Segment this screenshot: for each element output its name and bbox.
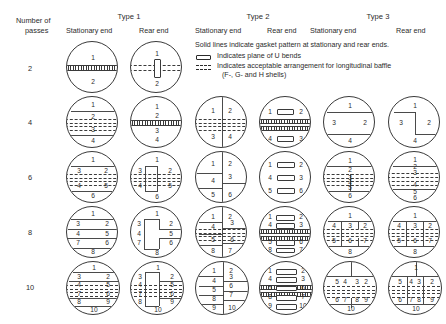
pass-number: 8 bbox=[138, 299, 142, 306]
pass-number: 3 bbox=[155, 128, 159, 135]
pass-number: 5 bbox=[348, 185, 352, 192]
pass-number: 7 bbox=[299, 247, 303, 254]
type-1-stationary-header: Stationary end bbox=[66, 26, 112, 35]
partition-line bbox=[327, 112, 373, 113]
pass-number: 6 bbox=[299, 188, 303, 195]
pass-number: 6 bbox=[106, 291, 110, 298]
u-bend-plane bbox=[276, 215, 295, 221]
baffle-band bbox=[388, 286, 442, 291]
pass-number: 2 bbox=[299, 162, 303, 169]
pass-circle: 1 3 2 4 5 7 6 8 9 10 bbox=[66, 261, 120, 315]
pass-number: 4 bbox=[137, 230, 141, 237]
pass-number: 1 bbox=[156, 265, 160, 272]
partition-line bbox=[157, 166, 158, 192]
row-header-line1: Number of bbox=[16, 16, 51, 25]
u-bend-plane bbox=[276, 295, 297, 301]
pass-number: 6 bbox=[348, 238, 352, 245]
pass-number: 9 bbox=[212, 305, 216, 312]
pass-number: 4 bbox=[228, 134, 232, 141]
partition-line bbox=[222, 183, 247, 184]
partition-line bbox=[199, 286, 223, 287]
pass-circle: 1 3 2 4 5 6 bbox=[66, 151, 118, 203]
type-3-stationary-header: Stationary end bbox=[310, 26, 356, 35]
pass-number: 5 bbox=[398, 279, 402, 286]
pass-number: 9 bbox=[170, 299, 174, 306]
pass-number: 1 bbox=[268, 108, 272, 115]
pass-number: 1 bbox=[155, 211, 159, 218]
pass-number: 3 bbox=[299, 175, 303, 182]
pass-number: 4 bbox=[348, 138, 352, 145]
gasket-band bbox=[66, 65, 118, 71]
pass-number: 3 bbox=[91, 126, 95, 133]
pass-number: 1 bbox=[211, 214, 215, 221]
pass-number: 4 bbox=[413, 138, 417, 145]
pass-number: 4 bbox=[397, 223, 401, 230]
partition-line bbox=[223, 300, 248, 301]
pass-number: 5 bbox=[397, 238, 401, 245]
pass-number: 6 bbox=[105, 240, 109, 247]
pass-circle: 1 2 3 4 5 6 bbox=[323, 151, 375, 203]
pass-number: 2 bbox=[106, 273, 110, 280]
pass-number: 4 bbox=[268, 175, 272, 182]
u-bend-plane bbox=[276, 277, 297, 283]
partition-line bbox=[222, 151, 223, 203]
pass-number: 1 bbox=[268, 268, 272, 275]
row-label-10: 10 bbox=[26, 283, 34, 292]
pass-number: 4 bbox=[212, 278, 216, 285]
pass-number: 5 bbox=[332, 238, 336, 245]
pass-number: 5 bbox=[268, 285, 272, 292]
u-bend-plane bbox=[277, 136, 294, 142]
pass-number: 2 bbox=[91, 113, 95, 120]
u-bend-plane bbox=[276, 304, 297, 310]
pass-circle: 1 5 4 3 2 6 7 8 9 10 bbox=[388, 261, 442, 315]
pass-number: 2 bbox=[155, 112, 159, 119]
baffle-band bbox=[195, 236, 247, 241]
partition-line bbox=[145, 272, 159, 273]
pass-circle: 1 2 3 4 bbox=[130, 96, 182, 148]
pass-number: 6 bbox=[91, 193, 95, 200]
pass-number: 8 bbox=[212, 296, 216, 303]
pass-number: 6 bbox=[155, 194, 159, 201]
pass-circle: 1 2 4 3 5 6 bbox=[195, 151, 247, 203]
pass-number: 3 bbox=[299, 222, 303, 229]
pass-number: 6 bbox=[413, 195, 417, 202]
pass-circle: 1 3 2 4 bbox=[388, 96, 440, 148]
pass-number: 4 bbox=[91, 138, 95, 145]
partition-line bbox=[406, 221, 407, 246]
partition-line bbox=[223, 281, 248, 282]
pass-number: 3 bbox=[355, 279, 359, 286]
pass-circle: 1 2 4 3 5 6 8 7 bbox=[259, 206, 311, 258]
baffle-band bbox=[130, 174, 182, 179]
pass-number: 1 bbox=[211, 108, 215, 115]
pass-arrangement-diagram: Number of passes Type 1 Stationary end R… bbox=[0, 0, 446, 324]
pass-number: 4 bbox=[138, 282, 142, 289]
pass-circle: 1 2 4 3 bbox=[259, 96, 311, 148]
partition-line bbox=[223, 261, 224, 315]
baffle-band bbox=[66, 181, 118, 186]
type-1-header: Type 1 bbox=[118, 12, 141, 21]
pass-number: 4 bbox=[268, 222, 272, 229]
row-header-line2: passes bbox=[25, 26, 48, 35]
pass-number: 1 bbox=[268, 214, 272, 221]
pass-number: 8 bbox=[268, 294, 272, 301]
pass-number: 1 bbox=[268, 162, 272, 169]
pass-number: 10 bbox=[90, 307, 97, 314]
pass-number: 1 bbox=[413, 103, 417, 110]
baffle-band bbox=[195, 119, 247, 124]
pass-number: 5 bbox=[211, 192, 215, 199]
pass-number: 8 bbox=[77, 299, 81, 306]
baffle-band bbox=[388, 229, 440, 234]
pass-number: 4 bbox=[211, 224, 215, 231]
pass-number: 2 bbox=[428, 223, 432, 230]
pass-number: 4 bbox=[332, 223, 336, 230]
pass-circle: 1 3 2 4 5 6 bbox=[130, 151, 182, 203]
pass-number: 2 bbox=[299, 108, 303, 115]
pass-number: 10 bbox=[154, 307, 161, 314]
pass-number: 4 bbox=[77, 282, 81, 289]
pass-number: 7 bbox=[137, 240, 141, 247]
pass-number: 8 bbox=[155, 250, 159, 257]
baffle-band bbox=[66, 285, 120, 290]
pass-number: 2 bbox=[228, 108, 232, 115]
u-bend-plane bbox=[276, 248, 295, 254]
u-bend-plane bbox=[276, 240, 295, 246]
